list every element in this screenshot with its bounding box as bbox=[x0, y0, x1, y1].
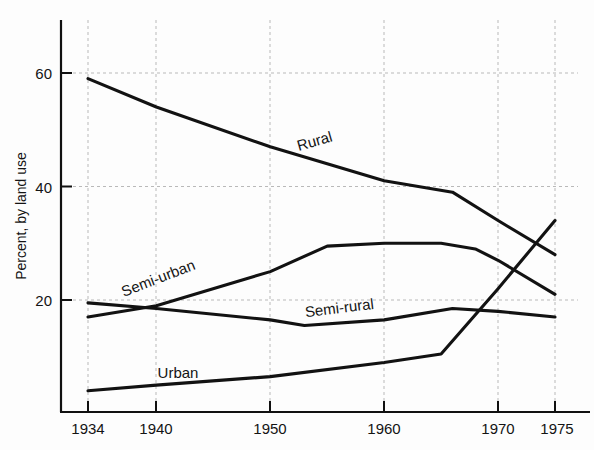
y-axis-title: Percent, by land use bbox=[13, 152, 29, 280]
series-label-rural: Rural bbox=[295, 128, 334, 154]
ytick-label-60: 60 bbox=[35, 65, 52, 82]
chart-svg: 60 40 20 1934 1940 1950 1960 1970 1975 P… bbox=[0, 0, 594, 450]
y-tick-labels: 60 40 20 bbox=[35, 65, 52, 309]
ytick-label-40: 40 bbox=[35, 179, 52, 196]
x-ticks bbox=[88, 401, 555, 412]
xtick-label-1950: 1950 bbox=[253, 420, 286, 437]
series-label-semi-urban: Semi-urban bbox=[119, 256, 197, 300]
xtick-label-1970: 1970 bbox=[481, 420, 514, 437]
series-label-semi-rural: Semi-rural bbox=[304, 295, 375, 320]
y-gridlines bbox=[61, 73, 578, 300]
y-ticks bbox=[61, 73, 72, 300]
xtick-label-1960: 1960 bbox=[367, 420, 400, 437]
axis-lines bbox=[60, 20, 590, 412]
series-line-rural bbox=[88, 79, 555, 255]
x-tick-labels: 1934 1940 1950 1960 1970 1975 bbox=[71, 420, 573, 437]
land-use-line-chart: 60 40 20 1934 1940 1950 1960 1970 1975 P… bbox=[0, 0, 594, 450]
xtick-label-1975: 1975 bbox=[540, 420, 573, 437]
xtick-label-1940: 1940 bbox=[139, 420, 172, 437]
series-group bbox=[88, 79, 555, 391]
series-label-urban: Urban bbox=[158, 364, 199, 381]
x-gridlines bbox=[88, 20, 555, 412]
xtick-label-1934: 1934 bbox=[71, 420, 104, 437]
ytick-label-20: 20 bbox=[35, 292, 52, 309]
